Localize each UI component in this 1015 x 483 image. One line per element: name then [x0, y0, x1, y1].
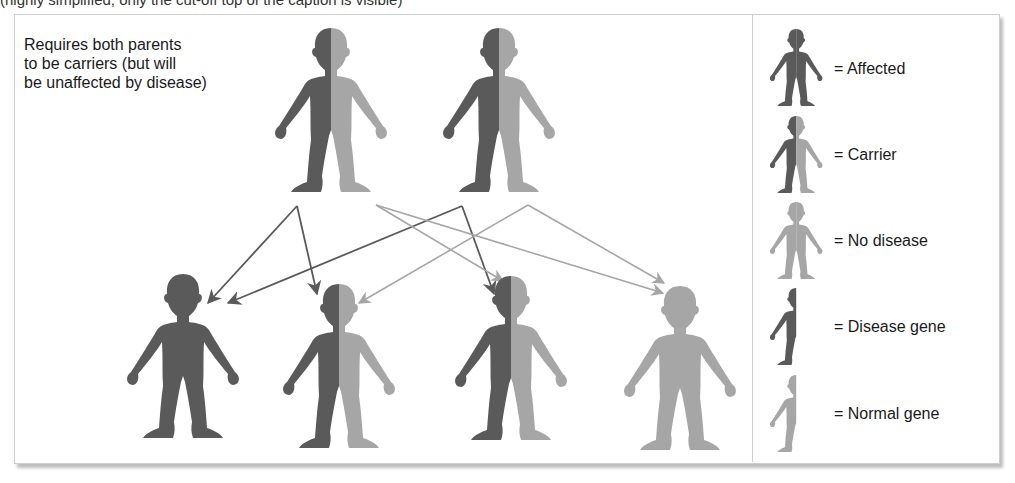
carrier-figure-icon [770, 116, 823, 193]
legend-label-no-disease: = No disease [834, 232, 928, 250]
child-2-carrier-figure [283, 284, 395, 448]
legend-label-carrier: = Carrier [834, 146, 897, 164]
child-1-affected-figure [127, 274, 239, 438]
no-disease-figure-icon [770, 202, 823, 279]
child-3-carrier-figure [455, 276, 567, 440]
parent-2-carrier-figure [443, 28, 555, 192]
parent-1-carrier-figure [275, 28, 387, 192]
legend-label-disease-gene: = Disease gene [834, 318, 946, 336]
child-4-no-disease-figure [624, 286, 736, 450]
normal-gene-half [331, 28, 387, 192]
disease-gene-half [275, 28, 331, 192]
disease-gene-arrows [208, 206, 494, 303]
legend-label-affected: = Affected [834, 60, 905, 78]
disease-gene-half-figure-icon [770, 288, 796, 365]
affected-figure-icon [770, 29, 823, 106]
normal-gene-half-figure-icon [770, 375, 796, 452]
legend-label-normal-gene: = Normal gene [834, 405, 939, 423]
